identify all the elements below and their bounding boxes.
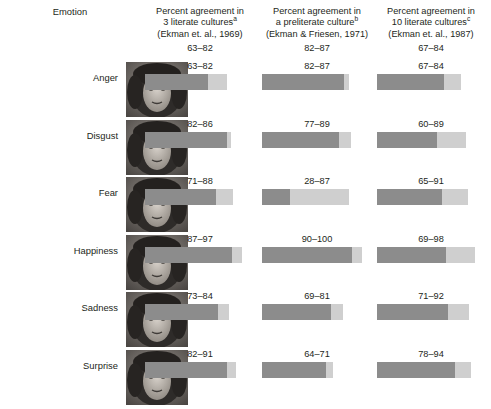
header-range-study-2: 82–87 xyxy=(255,43,379,54)
range-bar-low-segment xyxy=(145,304,218,320)
range-bar-high-segment xyxy=(232,247,242,263)
range-bar xyxy=(377,74,477,90)
value-label: 77–89 xyxy=(255,119,379,129)
emotion-agreement-figure: Emotion Percent agreement in 3 literate … xyxy=(0,0,491,409)
range-bar xyxy=(145,189,245,205)
column-header-study-2-line2: a preliterate cultureb xyxy=(255,17,379,28)
row-label-sadness: Sadness xyxy=(0,302,118,313)
column-header-study-2: Percent agreement in a preliterate cultu… xyxy=(255,6,379,54)
table-row: Sadness73–8469–8171–92 xyxy=(0,292,491,350)
table-row: Happiness87–9790–10069–98 xyxy=(0,235,491,293)
range-bar xyxy=(145,74,245,90)
range-bar-low-segment xyxy=(377,74,444,90)
range-bar-low-segment xyxy=(145,362,227,378)
range-bar-low-segment xyxy=(145,74,208,90)
range-bar-high-segment xyxy=(218,304,229,320)
column-header-emotion: Emotion xyxy=(0,6,140,17)
range-bar-low-segment xyxy=(262,247,352,263)
column-header-study-1-citation: (Ekman et. al., 1969) xyxy=(138,29,262,40)
column-header-study-3: Percent agreement in 10 literate culture… xyxy=(371,6,491,54)
table-row: Surprise82–9164–7178–94 xyxy=(0,350,491,408)
range-bar-high-segment xyxy=(227,362,236,378)
column-header-study-3-line2: 10 literate culturesc xyxy=(371,17,491,28)
value-label: 67–84 xyxy=(371,61,491,71)
range-bar-low-segment xyxy=(262,304,331,320)
range-bar-low-segment xyxy=(377,304,448,320)
header-range-study-3: 67–84 xyxy=(371,43,491,54)
column-header-study-2-line1: Percent agreement in xyxy=(255,6,379,17)
column-header-study-2-citation: (Ekman & Friesen, 1971) xyxy=(255,29,379,40)
range-bar-low-segment xyxy=(262,362,326,378)
range-bar-high-segment xyxy=(448,304,469,320)
range-bar-high-segment xyxy=(352,247,362,263)
range-bar-high-segment xyxy=(437,132,466,148)
range-bar-low-segment xyxy=(377,362,455,378)
range-bar xyxy=(262,132,362,148)
value-label: 71–92 xyxy=(371,291,491,301)
column-header-study-1: Percent agreement in 3 literate cultures… xyxy=(138,6,262,54)
range-bar-low-segment xyxy=(377,247,446,263)
header-range-study-1: 63–82 xyxy=(138,43,262,54)
range-bar-low-segment xyxy=(377,189,442,205)
value-label: 65–91 xyxy=(371,176,491,186)
value-label: 82–87 xyxy=(255,61,379,71)
range-bar xyxy=(145,247,245,263)
table-row: Anger63–8282–8767–84 xyxy=(0,62,491,120)
footnote-marker-a: a xyxy=(233,15,237,22)
row-label-anger: Anger xyxy=(0,72,118,83)
value-label: 64–71 xyxy=(255,349,379,359)
value-label: 63–82 xyxy=(138,61,262,71)
range-bar xyxy=(262,362,362,378)
value-label: 71–88 xyxy=(138,176,262,186)
value-label: 82–86 xyxy=(138,119,262,129)
range-bar xyxy=(262,189,362,205)
range-bar-low-segment xyxy=(262,132,339,148)
range-bar-high-segment xyxy=(442,189,468,205)
range-bar-low-segment xyxy=(145,189,216,205)
row-label-disgust: Disgust xyxy=(0,130,118,141)
range-bar-low-segment xyxy=(145,247,232,263)
row-label-surprise: Surprise xyxy=(0,360,118,371)
range-bar-high-segment xyxy=(227,132,231,148)
range-bar xyxy=(262,74,362,90)
value-label: 90–100 xyxy=(255,234,379,244)
range-bar xyxy=(145,132,245,148)
range-bar xyxy=(145,304,245,320)
range-bar xyxy=(262,304,362,320)
row-label-happiness: Happiness xyxy=(0,245,118,256)
table-row: Disgust82–8677–8960–89 xyxy=(0,120,491,178)
footnote-marker-b: b xyxy=(354,15,358,22)
range-bar xyxy=(377,189,477,205)
value-label: 69–81 xyxy=(255,291,379,301)
range-bar-low-segment xyxy=(145,132,227,148)
range-bar xyxy=(377,304,477,320)
table-header: Emotion Percent agreement in 3 literate … xyxy=(0,0,491,58)
range-bar-low-segment xyxy=(262,74,344,90)
column-header-study-3-citation: (Ekman et. al., 1987) xyxy=(371,29,491,40)
value-label: 69–98 xyxy=(371,234,491,244)
range-bar-high-segment xyxy=(444,74,461,90)
value-label: 82–91 xyxy=(138,349,262,359)
table-row: Fear71–8828–8765–91 xyxy=(0,177,491,235)
range-bar-low-segment xyxy=(262,189,290,205)
column-header-study-1-line2: 3 literate culturesa xyxy=(138,17,262,28)
range-bar-high-segment xyxy=(455,362,471,378)
range-bar xyxy=(377,362,477,378)
range-bar-high-segment xyxy=(326,362,333,378)
value-label: 60–89 xyxy=(371,119,491,129)
range-bar-high-segment xyxy=(290,189,349,205)
range-bar-high-segment xyxy=(208,74,227,90)
range-bar-high-segment xyxy=(216,189,233,205)
range-bar-high-segment xyxy=(344,74,349,90)
range-bar-high-segment xyxy=(339,132,351,148)
range-bar xyxy=(377,132,477,148)
footnote-marker-c: c xyxy=(467,15,470,22)
range-bar-low-segment xyxy=(377,132,437,148)
value-label: 28–87 xyxy=(255,176,379,186)
column-header-study-3-line1: Percent agreement in xyxy=(371,6,491,17)
range-bar-high-segment xyxy=(331,304,343,320)
range-bar-high-segment xyxy=(446,247,475,263)
value-label: 73–84 xyxy=(138,291,262,301)
range-bar xyxy=(145,362,245,378)
value-label: 87–97 xyxy=(138,234,262,244)
